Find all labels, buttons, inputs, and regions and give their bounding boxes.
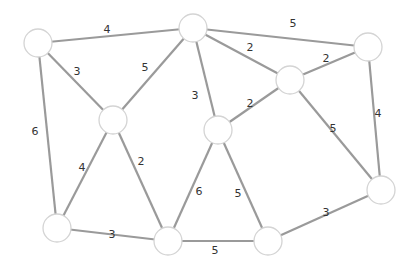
- edge-weight-label: 4: [104, 23, 111, 36]
- edge-weight-label: 5: [330, 122, 337, 135]
- graph-node-C: [354, 33, 382, 61]
- edge-weight-label: 5: [235, 187, 242, 200]
- graph-node-H: [43, 214, 71, 242]
- edge-E-I: [113, 120, 168, 241]
- edge-A-H: [38, 43, 57, 228]
- edge-weight-label: 3: [323, 206, 330, 219]
- edge-weight-label: 4: [375, 107, 382, 120]
- edge-E-H: [57, 120, 113, 228]
- nodes-layer: [24, 14, 395, 255]
- edge-A-B: [38, 28, 193, 43]
- edge-B-D: [193, 28, 290, 80]
- edge-weight-label: 4: [79, 161, 86, 174]
- graph-node-B: [179, 14, 207, 42]
- edge-weight-label: 6: [196, 185, 203, 198]
- graph-node-E: [99, 106, 127, 134]
- edge-weight-label: 3: [109, 228, 116, 241]
- weighted-graph: 436535222544265353: [0, 0, 415, 266]
- edge-A-E: [38, 43, 113, 120]
- graph-node-D: [276, 66, 304, 94]
- edge-F-J: [218, 130, 268, 241]
- edge-weight-label: 2: [247, 41, 254, 54]
- edge-weight-label: 3: [74, 65, 81, 78]
- edge-B-E: [113, 28, 193, 120]
- graph-node-J: [254, 227, 282, 255]
- edge-weight-label: 2: [247, 97, 254, 110]
- graph-node-A: [24, 29, 52, 57]
- graph-node-G: [367, 176, 395, 204]
- edge-weight-label: 5: [142, 61, 149, 74]
- edge-D-G: [290, 80, 381, 190]
- edge-weight-label: 6: [32, 125, 39, 138]
- graph-node-I: [154, 227, 182, 255]
- edge-F-I: [168, 130, 218, 241]
- edge-weight-label: 2: [138, 155, 145, 168]
- edge-B-F: [193, 28, 218, 130]
- edge-B-C: [193, 28, 368, 47]
- graph-node-F: [204, 116, 232, 144]
- edge-weight-label: 5: [212, 244, 219, 257]
- edge-weight-label: 3: [192, 89, 199, 102]
- edge-weight-label: 2: [323, 52, 330, 65]
- edge-weight-label: 5: [290, 17, 297, 30]
